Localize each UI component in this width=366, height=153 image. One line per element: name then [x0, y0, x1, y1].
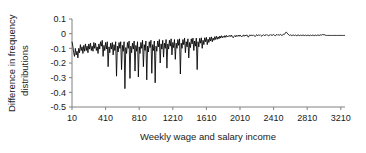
y-tick-label: 0.1: [53, 14, 66, 24]
x-axis-title: Weekly wage and salary income: [140, 131, 276, 142]
y-axis-title-line-2: distributions: [19, 45, 30, 96]
y-axis-title-line-1: Difference in frequency: [6, 14, 17, 112]
x-tick-label: 1610: [196, 113, 216, 123]
y-axis-title: Difference in frequency distributions: [6, 14, 30, 112]
y-axis-tick-labels: 0.10-0.1-0.2-0.3-0.4-0.5: [50, 14, 66, 112]
chart-svg: Difference in frequency distributions 0.…: [0, 0, 366, 153]
x-tick-label: 810: [132, 113, 147, 123]
x-tick-label: 2410: [264, 113, 284, 123]
x-tick-label: 1210: [163, 113, 183, 123]
y-tick-label: 0: [61, 29, 66, 39]
x-tick-label: 2010: [230, 113, 250, 123]
y-tick-label: -0.4: [50, 88, 66, 98]
x-tick-label: 410: [98, 113, 113, 123]
y-tick-label: -0.1: [50, 44, 66, 54]
x-axis-tick-labels: 10410810121016102010241028103210: [67, 113, 351, 123]
chart-figure: Difference in frequency distributions 0.…: [0, 0, 366, 153]
x-tick-label: 3210: [331, 113, 351, 123]
y-tick-label: -0.2: [50, 58, 66, 68]
x-tick-label: 2810: [297, 113, 317, 123]
y-tick-label: -0.3: [50, 73, 66, 83]
data-series-line: [72, 32, 345, 89]
y-tick-label: -0.5: [50, 102, 66, 112]
x-tick-label: 10: [67, 113, 77, 123]
